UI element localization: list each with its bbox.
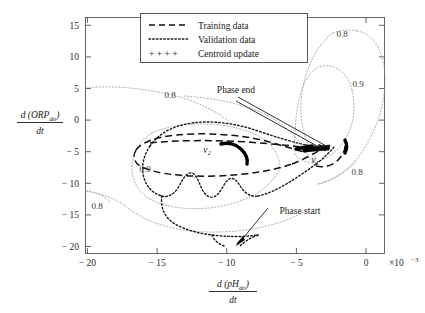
y-tick-label: 0: [74, 115, 79, 125]
x-tick-label: − 15: [148, 258, 165, 268]
contour-label: 0.9: [139, 164, 151, 174]
x-tick-label: 0: [364, 258, 369, 268]
y-axis-denominator: dt: [36, 126, 44, 136]
y-tick-label: 15: [70, 21, 80, 31]
x-tick-label: − 5: [290, 258, 303, 268]
legend-label-validation: Validation data: [198, 35, 256, 45]
y-tick-label: − 15: [62, 210, 79, 220]
y-tick-label: − 5: [67, 147, 80, 157]
x-tick-label: − 10: [218, 258, 235, 268]
x-exponent-base: ×10: [389, 258, 404, 268]
annotation-phase-start: Phase start: [280, 206, 321, 216]
legend: Training data Validation data + + + + Ce…: [141, 14, 308, 63]
contour-label: 0.8: [336, 29, 348, 39]
x-exponent-power: −3: [411, 256, 419, 264]
contour-label: 0.8: [351, 167, 363, 177]
phase-plane-chart: 15 10 5 0 − 5 − 10 − 15 − 20 − 20 − 15 −…: [0, 0, 425, 313]
x-axis-denominator: dt: [229, 295, 237, 305]
x-tick-label: − 20: [79, 258, 96, 268]
centroid-label-v2: v₂: [203, 145, 211, 155]
contour-label: 0.8: [164, 90, 176, 100]
contour-label: 0.8: [91, 201, 103, 211]
annotation-phase-end: Phase end: [217, 85, 256, 95]
centroid-marker-v1b: [345, 140, 347, 153]
y-tick-label: 5: [74, 84, 79, 94]
contour-label: 0.9: [352, 79, 364, 89]
y-tick-label: − 20: [62, 242, 79, 252]
legend-label-training: Training data: [198, 21, 249, 31]
y-tick-label: − 10: [62, 179, 79, 189]
legend-marker-centroid: + + + +: [149, 49, 178, 59]
y-tick-label: 10: [70, 52, 80, 62]
legend-label-centroid: Centroid update: [198, 49, 259, 59]
centroid-label-v1: v₁: [311, 155, 319, 165]
figure-container: 15 10 5 0 − 5 − 10 − 15 − 20 − 20 − 15 −…: [0, 0, 425, 313]
